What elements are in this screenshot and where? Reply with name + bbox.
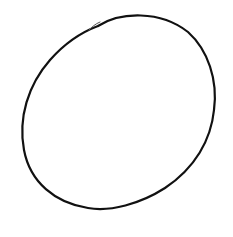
drawing-canvas: hand-drawn circle: [0, 0, 233, 237]
circle-sketch-icon: [0, 0, 233, 237]
circle-outline: [22, 15, 215, 209]
